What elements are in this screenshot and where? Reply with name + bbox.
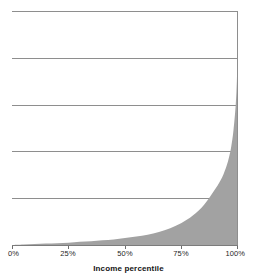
x-tick-label-25: 25%: [60, 249, 75, 259]
area-series-income-share: [12, 11, 238, 245]
x-tick-label-100: 100%: [225, 249, 245, 259]
plot-area: [12, 11, 238, 245]
series-path-income-share: [12, 51, 238, 245]
x-tick-label-50: 50%: [117, 249, 132, 259]
x-axis-title: Income percentile: [0, 264, 257, 273]
x-tick-label-0: 0%: [8, 249, 19, 259]
income-percentile-chart: 0% 25% 50% 75% 100% Income percentile: [0, 0, 257, 280]
axis-line-right: [237, 11, 238, 246]
x-tick-label-75: 75%: [173, 249, 188, 259]
